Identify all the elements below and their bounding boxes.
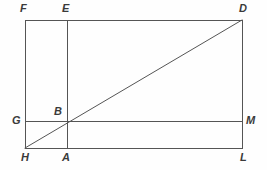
vertex-label-A: A (62, 152, 70, 163)
segments-group (25, 20, 242, 148)
vertex-label-L: L (240, 152, 247, 163)
vertex-label-B: B (54, 106, 62, 117)
vertex-label-G: G (12, 115, 21, 126)
diagonal-HD (25, 20, 242, 148)
vertex-label-H: H (21, 152, 29, 163)
figure-canvas (0, 0, 267, 170)
vertex-label-E: E (62, 3, 69, 14)
vertex-label-D: D (239, 3, 247, 14)
vertex-label-M: M (246, 115, 255, 126)
vertex-label-F: F (20, 3, 27, 14)
geometry-figure: FEDGBMHAL (0, 0, 267, 170)
